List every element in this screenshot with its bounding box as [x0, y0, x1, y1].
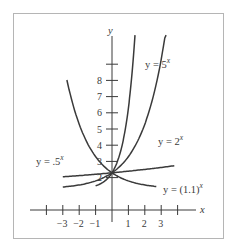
x-tick-label: −3: [57, 218, 68, 229]
curve-label: y = (1.1)x: [163, 181, 204, 196]
y-tick-label: 6: [97, 107, 102, 118]
x-tick-label: 3: [158, 218, 163, 229]
y-axis-label: y: [107, 25, 113, 36]
exponential-plot: −3−2−1123 2345678 y = 5xy = 2xy = .5xy =…: [0, 0, 236, 251]
labels: y = 5xy = 2xy = .5xy = (1.1)x: [36, 56, 204, 196]
y-tick-label: 8: [97, 75, 102, 86]
x-tick-label: 1: [125, 218, 130, 229]
y-tick-label: 5: [97, 124, 102, 135]
y-ticks: 2345678: [97, 64, 118, 183]
x-tick-label: −1: [90, 218, 101, 229]
y-tick-label: 7: [97, 91, 102, 102]
y-tick-label: 4: [97, 140, 102, 151]
curve-label: y = .5x: [36, 153, 64, 167]
curve-2x: [63, 35, 166, 187]
curves: [63, 35, 175, 187]
x-axis-label: x: [199, 204, 205, 215]
curve-label: y = 5x: [145, 56, 171, 70]
x-tick-label: −2: [73, 218, 84, 229]
curve-label: y = 2x: [158, 133, 184, 147]
x-tick-label: 2: [142, 218, 147, 229]
